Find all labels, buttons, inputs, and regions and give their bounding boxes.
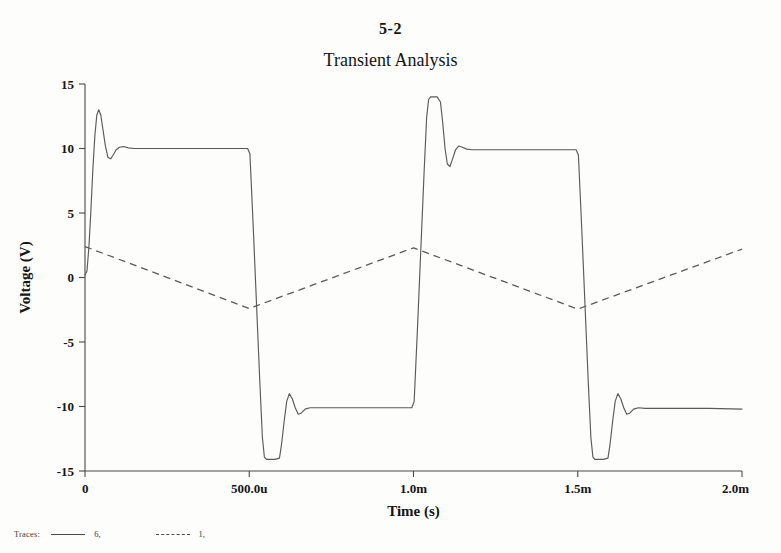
legend-entry-series-1: 1,: [156, 529, 205, 539]
transient-analysis-plot: 151050-5-10-150500.0u1.0m1.5m2.0m Voltag…: [0, 0, 781, 553]
trace-series-1: [85, 247, 742, 310]
plot-tick-labels: 151050-5-10-150500.0u1.0m1.5m2.0m: [57, 77, 750, 497]
y-tick-label: 15: [61, 77, 75, 92]
legend: Traces: 6, 1,: [14, 529, 205, 539]
x-tick-label: 500.0u: [231, 481, 267, 496]
x-axis-title: Time (s): [387, 503, 440, 520]
x-tick-label: 0: [82, 481, 89, 496]
y-tick-label: 0: [68, 270, 75, 285]
y-axis-title: Voltage (V): [17, 241, 34, 313]
legend-entry-series-0: 6,: [51, 529, 100, 539]
y-tick-label: -10: [57, 399, 74, 414]
plot-traces: [85, 97, 742, 459]
y-tick-label: 5: [68, 206, 75, 221]
legend-label-series-1: 1,: [199, 529, 205, 539]
plot-axes: [79, 84, 742, 477]
x-tick-label: 2.0m: [722, 481, 749, 496]
x-tick-label: 1.5m: [564, 481, 591, 496]
legend-caption: Traces:: [14, 529, 40, 539]
y-tick-label: -5: [63, 335, 74, 350]
legend-label-series-0: 6,: [94, 529, 100, 539]
y-tick-label: -15: [57, 464, 75, 479]
legend-swatch-dashed: [156, 534, 190, 535]
x-tick-label: 1.0m: [400, 481, 427, 496]
y-tick-label: 10: [61, 141, 74, 156]
trace-series-0: [85, 97, 742, 459]
legend-swatch-solid: [51, 534, 85, 535]
figure-page: 5-2 Transient Analysis 151050-5-10-15050…: [0, 0, 781, 553]
